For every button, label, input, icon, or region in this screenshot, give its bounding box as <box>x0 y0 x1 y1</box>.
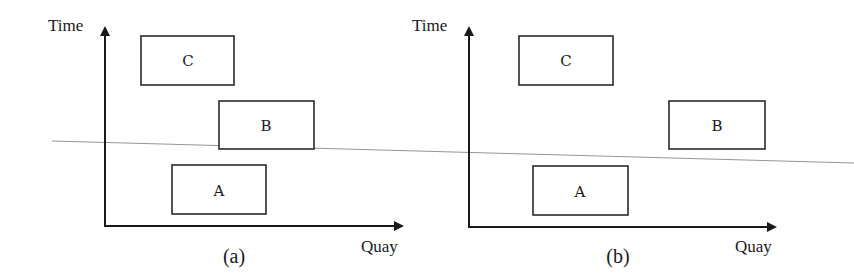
x-axis-label-b: Quay <box>735 237 772 256</box>
box-label: B <box>711 117 722 135</box>
box-a-a: A <box>172 165 266 214</box>
caption-a: (a) <box>223 245 245 268</box>
box-label: C <box>560 52 571 70</box>
x-axis-label-a: Quay <box>361 237 398 256</box>
panel-b: Time Quay C B A (b) <box>412 16 774 268</box>
diagram-canvas: Time Quay C B A (a) Time Quay C <box>0 0 854 280</box>
box-c-b: C <box>519 36 613 85</box>
caption-b: (b) <box>606 245 629 268</box>
box-label: A <box>574 183 586 201</box>
box-a-b: A <box>533 166 628 215</box>
y-axis-label-a: Time <box>48 16 83 35</box>
box-label: B <box>260 117 271 135</box>
y-axis-label-b: Time <box>412 16 447 35</box>
box-b-b: B <box>669 101 765 149</box>
box-b-a: B <box>219 101 314 149</box>
box-c-a: C <box>141 36 234 85</box>
box-label: A <box>213 182 225 200</box>
box-label: C <box>182 52 193 70</box>
